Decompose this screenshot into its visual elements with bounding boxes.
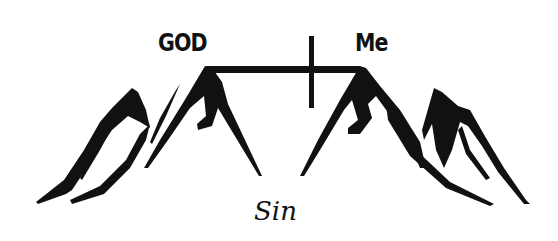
sin-label: Sin <box>254 196 297 226</box>
me-label: Me <box>355 28 388 57</box>
cross-upright <box>309 36 314 108</box>
god-label: GOD <box>158 28 207 57</box>
bridge-beam <box>206 66 360 73</box>
left-mountain <box>36 66 262 204</box>
bridge-diagram: GOD Me Sin <box>0 0 558 241</box>
right-mountain <box>300 66 530 206</box>
